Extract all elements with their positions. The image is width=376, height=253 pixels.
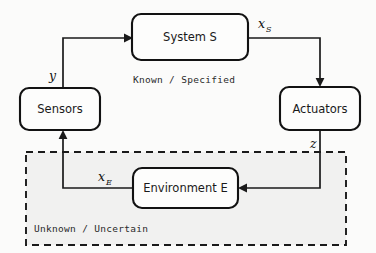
signal-label-y: y [48, 68, 57, 83]
arrowhead-to-actuators [316, 78, 325, 87]
connector-sensors-to-system [63, 34, 133, 88]
diagram-canvas: System S Sensors Actuators Environment E… [0, 0, 376, 253]
arrowhead-to-sensors [59, 130, 68, 139]
node-sensors[interactable]: Sensors [20, 88, 100, 130]
connector-system-to-actuators [248, 38, 324, 87]
node-system[interactable]: System S [132, 14, 248, 60]
node-actuators[interactable]: Actuators [280, 87, 360, 130]
signal-y-base: y [48, 68, 57, 83]
node-system-label: System S [163, 30, 217, 44]
signal-x-e-base: x [98, 169, 105, 184]
node-actuators-label: Actuators [292, 102, 347, 116]
signal-z-base: z [309, 136, 317, 151]
node-environment-label: Environment E [143, 181, 227, 195]
annotation-known-specified: Known / Specified [133, 74, 235, 85]
signal-label-x-s: x S [258, 16, 272, 34]
node-environment[interactable]: Environment E [133, 168, 238, 208]
block-diagram: System S Sensors Actuators Environment E… [0, 0, 376, 253]
signal-x-s-base: x [258, 16, 265, 31]
region-label-unknown-uncertain: Unknown / Uncertain [34, 223, 148, 234]
signal-x-s-subscript: S [266, 25, 272, 34]
signal-label-z: z [309, 136, 317, 151]
signal-x-e-subscript: E [105, 178, 112, 187]
node-sensors-label: Sensors [37, 102, 82, 116]
